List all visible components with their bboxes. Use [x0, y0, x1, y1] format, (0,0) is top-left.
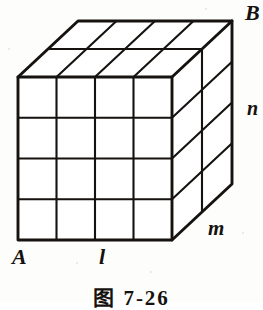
paper-speck: [150, 271, 152, 273]
paper-speck: [205, 8, 207, 10]
figure-caption: 图 7-26: [0, 288, 263, 309]
paper-speck: [242, 232, 244, 234]
paper-speck: [8, 48, 10, 50]
vertex-label-b: B: [245, 2, 260, 24]
cuboid-faces: [18, 21, 232, 240]
edge-label-depth: m: [208, 218, 224, 239]
vertex-label-a: A: [12, 246, 27, 268]
edge-label-length: l: [99, 246, 105, 268]
paper-speck: [76, 262, 78, 264]
edge-label-height: n: [247, 98, 258, 118]
